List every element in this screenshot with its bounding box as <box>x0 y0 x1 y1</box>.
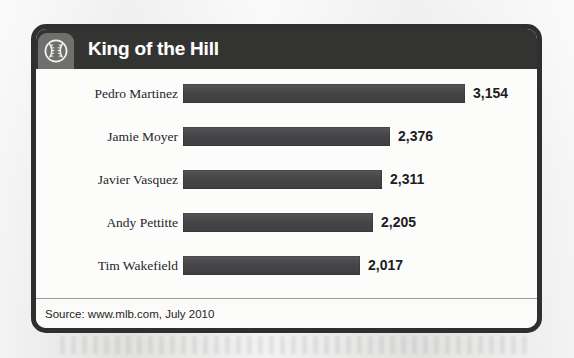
bar-value-label: 2,376 <box>398 127 433 146</box>
baseball-icon-tile <box>38 33 74 69</box>
bar <box>183 256 360 275</box>
chart-row: Andy Pettitte 2,205 <box>36 213 537 232</box>
page-bleedthrough-artifact <box>60 336 530 354</box>
bar-value-label: 3,154 <box>473 84 508 103</box>
card-footer: Source: www.mlb.com, July 2010 <box>36 298 537 328</box>
bar-category-label: Tim Wakefield <box>36 256 178 275</box>
bar-chart: Pedro Martinez 3,154 Jamie Moyer 2,376 J… <box>36 69 537 299</box>
chart-row: Pedro Martinez 3,154 <box>36 84 537 103</box>
card-header: King of the Hill <box>36 29 537 69</box>
bar-category-label: Javier Vasquez <box>36 170 178 189</box>
bar <box>183 170 382 189</box>
bar <box>183 213 373 232</box>
bar-category-label: Jamie Moyer <box>36 127 178 146</box>
chart-row: Jamie Moyer 2,376 <box>36 127 537 146</box>
baseball-icon <box>43 38 69 64</box>
bar <box>183 127 390 146</box>
bar-category-label: Andy Pettitte <box>36 213 178 232</box>
bar-value-label: 2,311 <box>390 170 424 189</box>
source-note: Source: www.mlb.com, July 2010 <box>45 308 214 320</box>
bar-category-label: Pedro Martinez <box>36 84 178 103</box>
bar-value-label: 2,017 <box>368 256 403 275</box>
chart-row: Tim Wakefield 2,017 <box>36 256 537 275</box>
chart-card: King of the Hill Pedro Martinez 3,154 Ja… <box>31 24 542 333</box>
bar-value-label: 2,205 <box>381 213 416 232</box>
chart-row: Javier Vasquez 2,311 <box>36 170 537 189</box>
bar <box>183 84 465 103</box>
page-title: King of the Hill <box>88 38 219 60</box>
